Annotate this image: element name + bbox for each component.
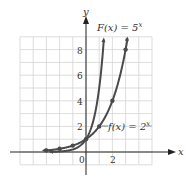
data-point	[57, 147, 61, 151]
x-tick-0: 0	[79, 155, 85, 165]
y-axis-arrow-icon	[83, 16, 89, 24]
data-point	[71, 143, 75, 147]
curve-arrow-icon	[102, 38, 106, 43]
y-tick-2: 2	[77, 122, 83, 132]
data-point	[110, 99, 114, 103]
data-point	[44, 148, 48, 152]
exponential-chart: x y 0 2 2 4 6 8 F(x) = 5x f(x) = 2x	[0, 0, 186, 181]
curve-5x	[50, 40, 103, 152]
x-tick-2: 2	[110, 155, 116, 165]
y-tick-4: 4	[77, 97, 83, 107]
curves	[42, 36, 129, 153]
data-point	[84, 137, 88, 141]
data-point	[97, 124, 101, 128]
y-axis-label: y	[82, 6, 89, 17]
data-point	[123, 47, 127, 51]
series-label-2x: f(x) = 2x	[107, 120, 150, 132]
series-label-5x: F(x) = 5x	[96, 21, 142, 33]
y-tick-8: 8	[77, 46, 83, 56]
x-axis-label: x	[178, 146, 184, 157]
x-axis-arrow-icon	[168, 149, 176, 155]
y-tick-6: 6	[77, 71, 83, 81]
